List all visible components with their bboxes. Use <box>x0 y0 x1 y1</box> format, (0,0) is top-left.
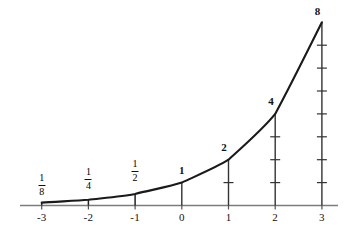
fraction-denominator: 8 <box>38 187 45 198</box>
value-label-0: 1 <box>179 165 185 176</box>
ordinate-segment-3 <box>317 22 327 205</box>
value-label-1: 2 <box>221 142 227 153</box>
x-tick-label-2: 2 <box>272 212 278 223</box>
x-tick-label-0: 0 <box>179 212 185 223</box>
value-label-3: 8 <box>315 6 321 17</box>
fraction-numerator: 1 <box>132 159 139 170</box>
x-tick-label-1: 1 <box>226 212 232 223</box>
x-tick-label-neg3: -3 <box>37 212 47 223</box>
value-label-neg3: 1 8 <box>38 173 45 197</box>
plot-canvas <box>0 0 358 238</box>
fraction-denominator: 4 <box>85 181 92 192</box>
ordinate-segment-1 <box>224 160 234 206</box>
fraction-numerator: 1 <box>38 173 45 184</box>
value-label-neg2: 1 4 <box>85 167 92 191</box>
value-label-2: 4 <box>268 96 274 107</box>
ordinate-segment-2 <box>270 114 280 206</box>
x-tick-label-neg2: -2 <box>84 212 94 223</box>
value-label-neg1: 1 2 <box>132 159 139 183</box>
fraction-denominator: 2 <box>132 173 139 184</box>
x-tick-label-neg1: -1 <box>130 212 140 223</box>
x-tick-label-3: 3 <box>319 212 325 223</box>
fraction-numerator: 1 <box>85 167 92 178</box>
exponential-curve-figure: -3 -2 -1 0 1 2 3 1 8 1 4 1 2 1 2 4 8 <box>0 0 358 238</box>
